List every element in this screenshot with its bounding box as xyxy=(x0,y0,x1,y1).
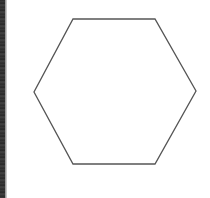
diagram-canvas xyxy=(0,0,210,198)
hexagon-shape xyxy=(34,19,196,164)
